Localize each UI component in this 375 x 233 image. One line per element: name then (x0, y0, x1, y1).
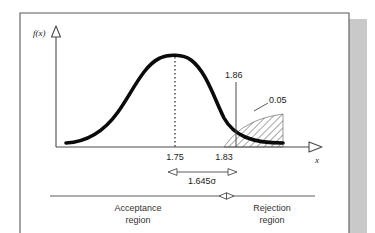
rejection-region-label-line1: Rejection (253, 203, 291, 213)
critical-tick-label: 1.83 (215, 152, 233, 162)
rejection-region-label-line2: region (259, 215, 284, 225)
dimension-label: 1.645σ (188, 176, 217, 186)
figure-frame (20, 13, 349, 233)
acceptance-region-label-line1: Acceptance (114, 203, 161, 213)
observed-value-label: 1.86 (225, 70, 243, 80)
mean-tick-label: 1.75 (166, 152, 184, 162)
figure-shadow (349, 19, 367, 233)
alpha-label: 0.05 (269, 95, 287, 105)
x-axis-label: x (314, 155, 319, 165)
y-axis-label: f(x) (33, 28, 46, 38)
acceptance-region-label-line2: region (125, 215, 150, 225)
hypothesis-test-figure: f(x) x 1.86 0.05 1.75 1.83 1.645σ (0, 0, 375, 233)
